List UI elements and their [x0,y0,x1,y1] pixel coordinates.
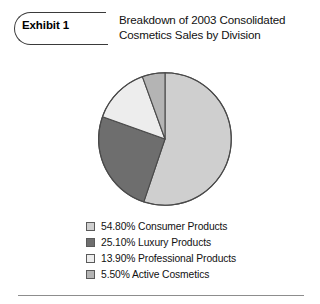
legend-item-consumer-products[interactable]: 54.80% Consumer Products [86,218,266,234]
chart-title-line-2: Cosmetics Sales by Division [119,28,315,43]
legend-label-luxury-products: 25.10% Luxury Products [101,237,211,248]
pie-chart-area [0,62,320,214]
legend-item-active-cosmetics[interactable]: 5.50% Active Cosmetics [86,266,266,282]
exhibit-header: Exhibit 1 Breakdown of 2003 Consolidated… [0,0,320,62]
legend-label-active-cosmetics: 5.50% Active Cosmetics [101,269,209,280]
exhibit-tag-label: Exhibit 1 [22,19,106,31]
legend-label-consumer-products: 54.80% Consumer Products [101,221,227,232]
chart-legend: 54.80% Consumer Products 25.10% Luxury P… [86,218,266,282]
legend-item-luxury-products[interactable]: 25.10% Luxury Products [86,234,266,250]
legend-swatch-consumer-products [86,222,95,231]
exhibit-tag-rule [100,44,108,45]
legend-item-professional-products[interactable]: 13.90% Professional Products [86,250,266,266]
chart-title: Breakdown of 2003 Consolidated Cosmetics… [119,13,315,42]
pie-chart [0,62,320,214]
legend-swatch-active-cosmetics [86,270,95,279]
legend-swatch-luxury-products [86,238,95,247]
footer-divider [18,295,304,296]
legend-label-professional-products: 13.90% Professional Products [101,253,236,264]
chart-title-line-1: Breakdown of 2003 Consolidated [119,13,315,28]
pie-slice-group [99,73,232,206]
legend-swatch-professional-products [86,254,95,263]
